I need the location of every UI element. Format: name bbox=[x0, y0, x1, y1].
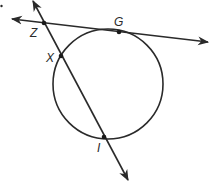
point-g-dot bbox=[117, 30, 122, 35]
point-z-dot bbox=[42, 21, 47, 26]
stray-dot bbox=[0, 5, 2, 7]
geometry-diagram: Z G X I bbox=[0, 0, 212, 192]
point-g-label: G bbox=[114, 15, 123, 29]
point-x-dot bbox=[59, 54, 64, 59]
point-x-label: X bbox=[45, 51, 55, 65]
point-i-dot bbox=[102, 135, 107, 140]
point-z-label: Z bbox=[29, 26, 38, 40]
circle bbox=[53, 29, 163, 139]
point-i-label: I bbox=[97, 141, 101, 155]
tangent-line-zg bbox=[12, 19, 208, 42]
